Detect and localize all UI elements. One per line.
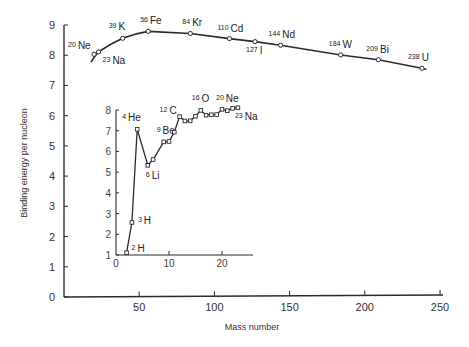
point-label: 23Na	[103, 55, 126, 66]
inset-point-label: 2H	[132, 243, 145, 254]
data-point	[92, 52, 96, 56]
inset-data-point	[125, 251, 129, 255]
binding-energy-chart: 012345678950100150200250 20Ne23Na39K56Fe…	[0, 0, 469, 347]
x-axis-line	[64, 295, 443, 297]
point-label: 20Ne	[68, 40, 91, 51]
inset-y-tick-label: 5	[105, 167, 111, 178]
inset-curve: 2H3H4He6Li9Be12C16O20Ne23Na	[122, 93, 258, 254]
point-label: 110Cd	[217, 23, 243, 34]
x-tick-label: 100	[205, 301, 223, 313]
inset-data-point	[167, 140, 171, 144]
inset-data-point	[220, 108, 224, 112]
y-tick-label: 2	[49, 231, 55, 243]
point-label: 238U	[408, 52, 429, 63]
inset-data-point	[130, 221, 134, 225]
inset-data-point	[215, 113, 219, 117]
x-tick-label: 150	[280, 301, 298, 313]
x-tick-label: 250	[431, 301, 449, 313]
data-point	[420, 66, 424, 70]
data-point	[227, 37, 231, 41]
y-tick-label: 7	[49, 79, 55, 91]
data-point	[376, 58, 380, 62]
inset-x-tick-label: 0	[113, 258, 119, 269]
inset-point-label: 6Li	[146, 170, 160, 181]
data-point	[121, 36, 125, 40]
point-label: 84Kr	[182, 17, 202, 28]
inset-data-point	[210, 113, 214, 117]
inset-data-point	[199, 109, 203, 113]
data-point	[96, 50, 100, 54]
inset-data-point	[188, 119, 192, 123]
inset-data-point	[135, 127, 139, 131]
point-label: 127I	[246, 45, 262, 56]
y-axis-title: Binding energy per nucleon	[19, 108, 29, 218]
inset-data-point	[236, 106, 240, 110]
inset-point-label: 16O	[192, 93, 210, 104]
y-tick-label: 9	[49, 19, 55, 31]
data-point	[339, 53, 343, 57]
y-tick-label: 8	[49, 49, 55, 61]
inset-y-tick-label: 7	[105, 126, 111, 137]
inset-x-tick-label: 20	[216, 258, 228, 269]
inset-data-point	[231, 107, 235, 111]
point-label: 209Bi	[366, 44, 389, 55]
point-label: 184W	[329, 39, 353, 50]
inset-data-point	[162, 140, 166, 144]
data-point	[146, 29, 150, 33]
point-label: 56Fe	[140, 15, 162, 26]
x-tick-label: 200	[356, 301, 374, 313]
inset-y-tick-label: 6	[105, 146, 111, 157]
inset-y-tick-label: 2	[105, 229, 111, 240]
main-axes: 012345678950100150200250	[49, 19, 449, 313]
inset-curve-line	[127, 108, 238, 253]
inset-data-point	[151, 158, 155, 162]
inset-point-label: 3H	[138, 215, 151, 226]
inset-y-tick-label: 1	[105, 250, 111, 261]
inset-data-point	[194, 114, 198, 118]
y-tick-label: 6	[49, 110, 55, 122]
y-tick-label: 1	[49, 261, 55, 273]
x-axis-title: Mass number	[225, 322, 280, 332]
point-label: 144Nd	[269, 29, 295, 40]
inset-point-label: 4He	[122, 112, 141, 123]
inset-data-point	[226, 109, 230, 113]
inset-point-label: 12C	[160, 105, 177, 116]
y-tick-label: 5	[49, 140, 55, 152]
inset-data-point	[173, 130, 177, 134]
inset-point-label: 20Ne	[216, 93, 239, 104]
y-tick-label: 0	[49, 291, 55, 303]
inset-y-tick-label: 3	[105, 209, 111, 220]
inset-data-point	[204, 113, 208, 117]
point-label: 39K	[109, 21, 126, 32]
y-tick-label: 3	[49, 200, 55, 212]
data-point	[278, 43, 282, 47]
inset-point-label: 23Na	[235, 111, 258, 122]
inset-y-tick-label: 8	[105, 105, 111, 116]
inset-x-tick-label: 10	[163, 258, 175, 269]
inset-y-tick-label: 4	[105, 188, 111, 199]
inset-data-point	[146, 164, 150, 168]
data-point	[188, 31, 192, 35]
main-curve: 20Ne23Na39K56Fe84Kr110Cd127I144Nd184W209…	[68, 15, 429, 70]
y-tick-label: 4	[49, 170, 55, 182]
inset-data-point	[178, 115, 182, 119]
x-tick-label: 50	[133, 301, 145, 313]
inset-data-point	[183, 119, 187, 123]
data-point	[253, 40, 257, 44]
